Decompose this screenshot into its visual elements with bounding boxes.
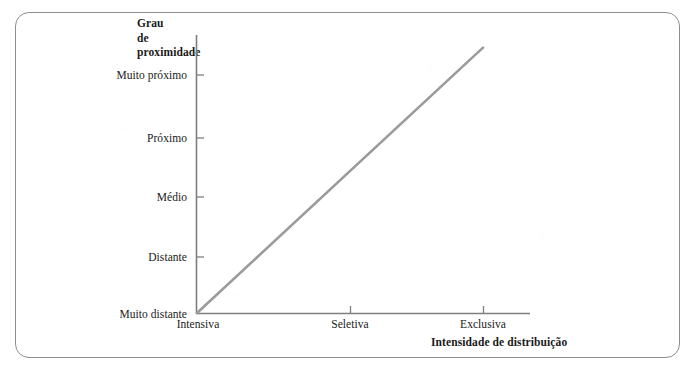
chart-svg — [0, 0, 694, 379]
data-series-line — [197, 48, 483, 313]
figure-root: Grau de proximidade Muito próximo Próxim… — [0, 0, 694, 379]
chart-plot-area: Grau de proximidade Muito próximo Próxim… — [0, 0, 694, 379]
